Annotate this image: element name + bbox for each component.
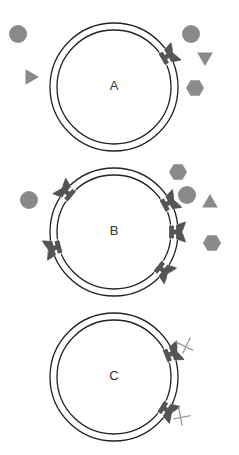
ligand-circle-icon (182, 25, 200, 43)
receptor-2 (170, 222, 186, 242)
cell-b: B (20, 164, 221, 296)
receptor-3 (42, 237, 63, 260)
ligand-circle-icon (20, 191, 38, 209)
cell-c: C (50, 313, 197, 441)
cell-label: B (110, 223, 119, 238)
ligand-triangle-icon (202, 194, 218, 208)
ligand-circle-icon (9, 25, 27, 43)
cell-label: C (109, 368, 118, 383)
ligand-hexagon-icon (186, 80, 204, 96)
cell-label: A (110, 78, 119, 93)
ligand-circle-icon (178, 186, 196, 204)
cell-receptor-diagram: ABC (0, 0, 239, 455)
ligand-hexagon-icon (169, 164, 187, 180)
ligand-triangle-icon (197, 53, 213, 67)
ligand-triangle-icon (26, 69, 40, 85)
ligand-hexagon-icon (203, 235, 221, 251)
cell-a: A (9, 23, 213, 151)
blocker-x-icon (176, 337, 193, 355)
diagram-canvas: ABC (0, 0, 239, 455)
receptor-0 (157, 43, 181, 68)
receptor-1 (156, 398, 192, 431)
